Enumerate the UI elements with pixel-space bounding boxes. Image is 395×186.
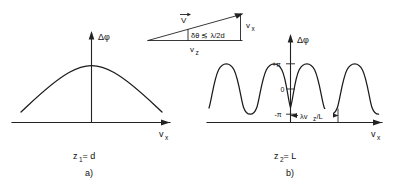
panel-b-condition-main: z [274, 151, 279, 161]
triangle-hypotenuse-label-text: V [181, 16, 187, 25]
triangle-base-label-sub: z [196, 49, 199, 56]
triangle-vertical-label-sub: x [252, 25, 256, 32]
panel-b-x-axis [207, 120, 382, 126]
triangle-vertical-label-main: v [246, 21, 250, 30]
panel-a-x-axis-label: v x [159, 129, 169, 141]
panel-b-x-axis-label: v x [371, 129, 381, 141]
panel-b-ytick-minus-pi: -π [275, 111, 282, 118]
panel-b-period-label-main: λv [300, 112, 308, 121]
panel-b: +π 0 -π λv z /L Δφ v x [207, 34, 382, 178]
panel-a-condition-rest: = d [83, 151, 96, 161]
panel-a-x-axis-label-sub: x [165, 134, 169, 141]
panel-a-y-axis-label: Δφ [98, 32, 110, 42]
panel-b-period-label-rest: /L [317, 112, 323, 121]
triangle-base-label-main: v [190, 45, 194, 54]
triangle-vertical-label: v x [246, 21, 256, 32]
panel-b-x-axis-label-sub: x [377, 134, 381, 141]
panel-a-y-axis [89, 31, 95, 123]
triangle-base-label: v z [190, 45, 199, 56]
panel-a: Δφ v x z 1 = d a) [12, 31, 170, 178]
panel-b-x-axis-label-main: v [371, 129, 376, 139]
panel-a-condition: z 1 = d [73, 151, 95, 163]
panel-b-condition: z 2 = L [274, 151, 296, 163]
panel-b-y-axis-label: Δφ [297, 35, 309, 45]
panel-b-ytick-plus-pi: +π [272, 61, 281, 68]
panel-b-period-annotation: λv z /L [291, 109, 339, 122]
panel-b-y-axis [288, 34, 294, 123]
figure-svg: Δφ v x z 1 = d a) [0, 0, 395, 186]
triangle-hypotenuse-label: V [181, 13, 192, 25]
figure-container: Δφ v x z 1 = d a) [0, 0, 395, 186]
triangle-angle-label: δθ ≲ λ/2d [191, 31, 225, 40]
panel-a-caption: a) [85, 168, 93, 178]
panel-a-x-axis-label-main: v [159, 129, 164, 139]
panel-b-caption: b) [286, 168, 294, 178]
panel-b-ytick-zero: 0 [281, 86, 285, 93]
panel-b-condition-rest: = L [284, 151, 297, 161]
panel-a-condition-main: z [73, 151, 78, 161]
velocity-triangle: V δθ ≲ λ/2d v x v z [148, 13, 256, 56]
